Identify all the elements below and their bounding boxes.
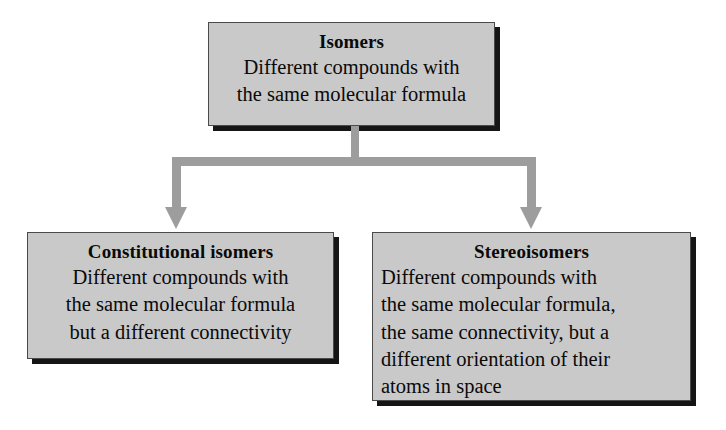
- connector-crossbar: [172, 157, 536, 166]
- node-constitutional-isomers: Constitutional isomers Different compoun…: [27, 232, 334, 359]
- connector-arm-left: [172, 157, 181, 208]
- node-isomers-title: Isomers: [319, 29, 384, 54]
- arrow-down-icon-left: [165, 207, 187, 229]
- node-stereoisomers-title: Stereoisomers: [474, 239, 589, 264]
- node-constitutional-isomers-title: Constitutional isomers: [88, 239, 273, 264]
- connector-stem: [351, 126, 359, 159]
- node-stereoisomers: Stereoisomers Different compounds with t…: [372, 232, 691, 401]
- node-constitutional-isomers-body: Different compounds with the same molecu…: [66, 264, 295, 346]
- isomers-diagram: Isomers Different compounds with the sam…: [0, 0, 726, 430]
- connector-arm-right: [527, 157, 536, 208]
- node-isomers: Isomers Different compounds with the sam…: [208, 22, 495, 126]
- node-stereoisomers-body: Different compounds with the same molecu…: [381, 264, 616, 400]
- arrow-down-icon-right: [520, 207, 542, 229]
- node-isomers-body: Different compounds with the same molecu…: [237, 54, 466, 109]
